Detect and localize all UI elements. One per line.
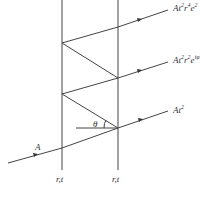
output-ray-3 [118,111,168,128]
internal-ray-3 [62,27,118,43]
output-label-3: At2 [172,104,184,115]
internal-ray-2 [62,78,118,94]
output-ray-2 [118,62,168,78]
internal-reflection-2 [62,43,118,78]
output-label-1: At2r4e2 [172,2,198,13]
output-ray-1 [118,10,168,27]
multi-beam-interference-diagram: A θ r,t r,t At2r4e2 At2r2eiφ At2 [0,0,212,197]
internal-reflection-1 [62,94,118,128]
output-label-2: At2r2eiφ [172,54,200,65]
incident-label: A [34,142,41,152]
surface-label-left: r,t [56,174,64,184]
refracted-ray [62,128,118,148]
angle-arc [104,120,106,128]
angle-label: θ [93,119,98,129]
surface-label-right: r,t [112,174,120,184]
